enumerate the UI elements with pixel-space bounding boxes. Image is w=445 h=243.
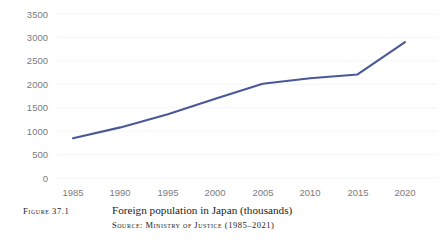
- gridlines: [57, 14, 437, 178]
- chart-svg: 3500 3000 2500 2000 1500 1000 500 0 1985…: [0, 0, 445, 200]
- xtick-label-2015: 2015: [347, 187, 368, 198]
- ytick-label-3000: 3000: [27, 32, 48, 43]
- figure-container: 3500 3000 2500 2000 1500 1000 500 0 1985…: [0, 0, 445, 243]
- xtick-label-2000: 2000: [204, 187, 225, 198]
- ytick-label-1500: 1500: [27, 102, 48, 113]
- xtick-label-1990: 1990: [109, 187, 130, 198]
- ytick-label-3500: 3500: [27, 9, 48, 20]
- figure-caption: Figure 37.1 Foreign population in Japan …: [0, 203, 445, 243]
- y-axis-labels: 3500 3000 2500 2000 1500 1000 500 0: [27, 9, 48, 184]
- x-axis-labels: 1985 1990 1995 2000 2005 2010 2015 2020: [62, 187, 415, 198]
- figure-title-label: Foreign population in Japan (thousands): [112, 204, 292, 216]
- line-chart: 3500 3000 2500 2000 1500 1000 500 0 1985…: [0, 0, 445, 200]
- ytick-label-2000: 2000: [27, 79, 48, 90]
- xtick-label-1985: 1985: [62, 187, 83, 198]
- xtick-label-2005: 2005: [252, 187, 273, 198]
- figure-source-label: Source: Ministry of Justice (1985–2021): [112, 220, 274, 230]
- ytick-label-0: 0: [43, 173, 48, 184]
- ytick-label-1000: 1000: [27, 126, 48, 137]
- xtick-label-2010: 2010: [299, 187, 320, 198]
- xtick-label-2020: 2020: [394, 187, 415, 198]
- xtick-label-1995: 1995: [157, 187, 178, 198]
- figure-number-label: Figure 37.1: [23, 206, 69, 216]
- ytick-label-2500: 2500: [27, 55, 48, 66]
- series-line-foreign-population: [73, 42, 405, 138]
- ytick-label-500: 500: [32, 149, 48, 160]
